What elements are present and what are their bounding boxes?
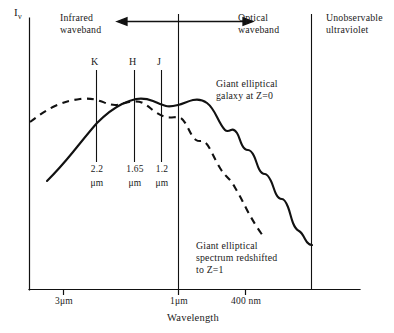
band-value-H: 1.65 — [120, 164, 150, 176]
solid-curve-annotation: Giant ellipticalgalaxy at Z=0 — [216, 78, 278, 102]
y-axis-label-subscript: ν — [18, 12, 22, 21]
band-value-K: 2.2 — [84, 164, 110, 176]
plot-axes — [29, 18, 360, 290]
optical-waveband-label: Opticalwaveband — [238, 12, 279, 36]
waveband-double-arrow — [117, 18, 253, 25]
band-letter-J: J — [157, 56, 161, 68]
figure-canvas — [0, 0, 394, 333]
x-tick-label-3um: 3μm — [44, 296, 84, 308]
infrared-waveband-label: Infraredwaveband — [60, 12, 101, 36]
x-axis-title: Wavelength — [138, 312, 248, 325]
x-axis-ticks — [64, 290, 246, 296]
band-letter-H: H — [129, 56, 136, 68]
band-value-J: 1.2 — [149, 164, 175, 176]
arrow-head-left — [117, 18, 127, 25]
band-unit-K: μm — [84, 178, 110, 190]
band-unit-H: μm — [120, 178, 150, 190]
y-axis-label: Iν — [14, 6, 22, 22]
unobservable-ultraviolet-label: Unobservableultraviolet — [326, 12, 383, 36]
spectral-energy-distribution-figure: Iν Infraredwaveband Opticalwaveband Unob… — [0, 0, 394, 333]
x-tick-label-400nm: 400 nm — [221, 296, 271, 308]
x-tick-label-1um: 1μm — [159, 296, 199, 308]
band-unit-J: μm — [149, 178, 175, 190]
band-marker-lines — [97, 70, 162, 162]
dashed-curve-annotation: Giant ellipticalspectrum redshiftedto Z=… — [196, 240, 277, 276]
band-letter-K: K — [91, 56, 98, 68]
